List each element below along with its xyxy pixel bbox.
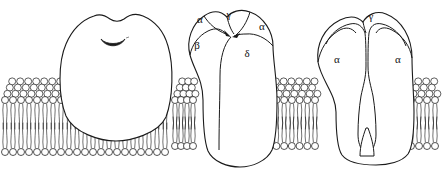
subunit-gamma-top-label-right: γ [368, 10, 374, 22]
subunit-delta-label: δ [244, 47, 249, 59]
figure-root: α γ α β δ γ α α [0, 0, 443, 180]
lipid-head [122, 149, 129, 156]
lipid-head [304, 97, 311, 104]
subunit-beta-label: β [194, 39, 200, 51]
lipid-head [34, 97, 41, 104]
lipid-head [10, 149, 17, 156]
lipid-head [50, 97, 57, 104]
lipid-head [288, 143, 295, 150]
lipid-head [42, 149, 49, 156]
lipid-head [190, 143, 197, 150]
lipid-head [2, 97, 9, 104]
lipid-head [2, 149, 9, 156]
subunit-alpha-right-label: α [259, 20, 265, 32]
lipid-head [50, 149, 57, 156]
upper-leaflet-row [412, 84, 435, 91]
upper-leaflet-row [176, 84, 195, 91]
lipid-head [190, 97, 197, 104]
lipid-head [416, 97, 423, 104]
lipid-head [296, 143, 303, 150]
lipid-head [130, 149, 137, 156]
subunit-alpha-right-label-right: α [395, 53, 401, 65]
lipid-head [432, 143, 439, 150]
lipid-head [424, 143, 431, 150]
subunit-gamma-top-label: γ [226, 8, 232, 20]
receptor-dome-body [60, 15, 172, 141]
subunit-alpha-left-label: α [197, 13, 203, 25]
lipid-head [416, 143, 423, 150]
lipid-head [281, 143, 288, 150]
lipid-head [66, 149, 73, 156]
lipid-head [74, 149, 81, 156]
lipid-head [58, 149, 65, 156]
lipid-head [82, 149, 89, 156]
lipid-head [18, 149, 25, 156]
lipid-head [312, 143, 319, 150]
lipid-head [90, 149, 97, 156]
lipid-head [312, 97, 319, 104]
lipid-head [288, 97, 295, 104]
receptor-diagram: α γ α β δ γ α α [0, 0, 443, 180]
lipid-head [138, 149, 145, 156]
subunit-alpha-left-label-right: α [334, 53, 340, 65]
lipid-head [26, 97, 33, 104]
lipid-head [26, 149, 33, 156]
lipid-head [18, 97, 25, 104]
lipid-head [296, 97, 303, 104]
lipid-head [154, 149, 161, 156]
lipid-head [432, 97, 439, 104]
lipid-head [281, 97, 288, 104]
upper-leaflet-row [415, 78, 438, 85]
receptor-extracellular-view [60, 15, 172, 141]
lipid-head [106, 149, 113, 156]
lipid-head [162, 149, 169, 156]
upper-leaflet-row [179, 78, 198, 85]
lipid-head [34, 149, 41, 156]
lipid-head [424, 97, 431, 104]
lipid-head [98, 149, 105, 156]
lipid-head [146, 149, 153, 156]
lipid-head [10, 97, 17, 104]
lipid-head [42, 97, 49, 104]
lipid-head [114, 149, 121, 156]
lipid-head [304, 143, 311, 150]
